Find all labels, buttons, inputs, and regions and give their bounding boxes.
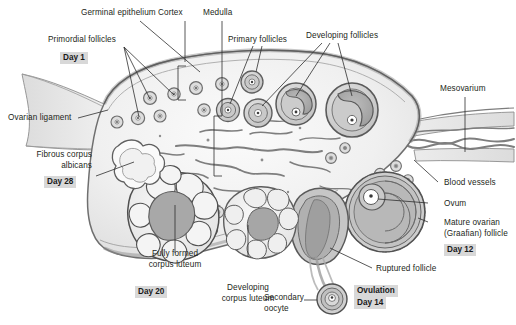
label-fully-formed-cl-line1: Fully formed	[120, 249, 230, 259]
day-marker-20: Day 20	[135, 286, 167, 298]
day-marker-12: Day 12	[444, 244, 476, 256]
label-ruptured-follicle: Ruptured follicle	[376, 264, 436, 274]
fibrous-corpus-albicans-shape	[112, 140, 164, 189]
label-developing-follicles: Developing follicles	[306, 31, 378, 41]
mesovarium-shape	[412, 108, 514, 162]
label-mature-follicle-line1: Mature ovarian	[444, 218, 500, 228]
label-ovarian-ligament: Ovarian ligament	[8, 113, 72, 123]
ruptured-follicle-shape	[290, 188, 348, 290]
label-secondary-oocyte-line1: Secondary	[264, 293, 304, 303]
mature-graafian-follicle-shape	[345, 172, 425, 252]
blood-vessels-shape	[408, 128, 514, 149]
label-developing-cl-line1: Developing	[198, 283, 298, 293]
label-mature-follicle-line2: (Graafian) follicle	[444, 229, 508, 239]
day-marker-1: Day 1	[60, 52, 88, 64]
label-fibrous-corpus-albicans-line2: albicans	[0, 161, 92, 171]
label-mesovarium: Mesovarium	[440, 84, 486, 94]
ovary-cycle-diagram: Germinal epithelium Cortex Medulla Primo…	[0, 0, 516, 325]
label-fibrous-corpus-albicans-line1: Fibrous corpus	[0, 150, 92, 160]
day-marker-14: Day 14	[354, 297, 386, 309]
label-germinal-epithelium: Germinal epithelium	[81, 8, 156, 18]
developing-corpus-luteum-shape	[224, 187, 299, 259]
secondary-oocyte-shape	[317, 284, 347, 314]
label-secondary-oocyte-line2: oocyte	[264, 304, 289, 314]
label-fully-formed-cl-line2: corpus luteum	[120, 260, 230, 270]
label-ovum: Ovum	[444, 199, 466, 209]
label-blood-vessels: Blood vessels	[444, 178, 496, 188]
label-cortex: Cortex	[158, 8, 183, 18]
label-primary-follicles: Primary follicles	[228, 35, 287, 45]
day-marker-28: Day 28	[44, 176, 76, 188]
label-ovulation: Ovulation	[354, 285, 398, 297]
label-medulla: Medulla	[203, 8, 232, 18]
label-primordial-follicles: Primordial follicles	[48, 35, 116, 45]
